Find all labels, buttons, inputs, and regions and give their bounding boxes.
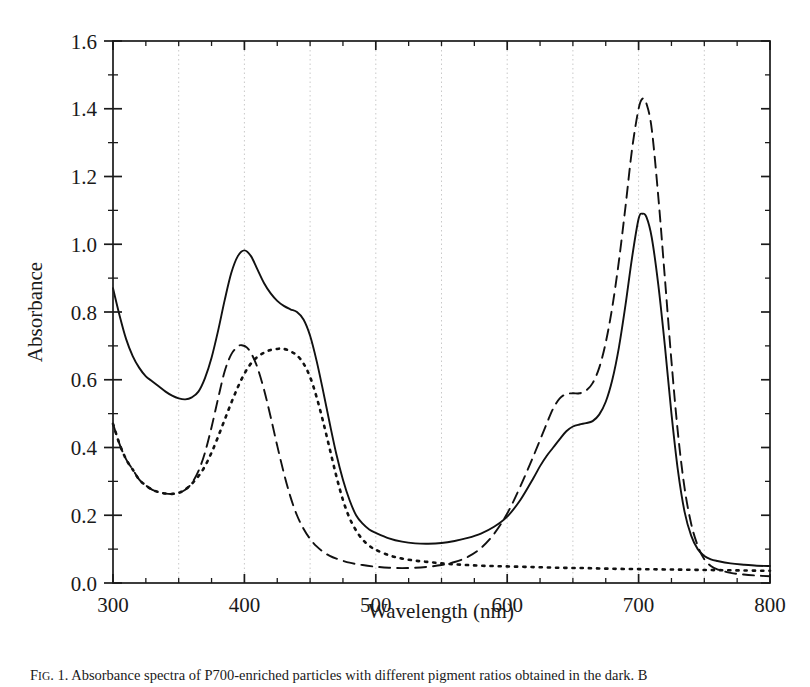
caption-text: . 1. Absorbance spectra of P700-enriched… <box>50 667 647 683</box>
y-tick-label-0.8: 0.8 <box>71 301 97 325</box>
axis-ticks <box>104 41 770 583</box>
y-axis-tick-labels: 0.00.20.40.60.81.01.21.41.6 <box>71 30 98 596</box>
x-tick-label-300: 300 <box>97 593 129 617</box>
absorbance-spectra-chart: 300400500600700800 0.00.20.40.60.81.01.2… <box>0 0 810 630</box>
figure-container: 300400500600700800 0.00.20.40.60.81.01.2… <box>0 0 810 687</box>
gridlines <box>179 41 705 583</box>
y-tick-label-1.6: 1.6 <box>71 30 97 54</box>
y-tick-label-0: 0.0 <box>71 572 97 596</box>
x-axis-title: Wavelength (nm) <box>368 599 514 623</box>
y-tick-label-0.6: 0.6 <box>71 368 97 392</box>
y-tick-label-0.2: 0.2 <box>71 504 97 528</box>
y-axis-title: Absorbance <box>23 262 47 362</box>
x-tick-label-800: 800 <box>754 593 786 617</box>
y-tick-label-0.4: 0.4 <box>71 436 98 460</box>
caption-prefix-smallcaps: IG <box>38 670 50 682</box>
x-tick-label-700: 700 <box>623 593 655 617</box>
y-tick-label-1: 1.0 <box>71 233 97 257</box>
x-tick-label-400: 400 <box>229 593 261 617</box>
figure-caption: FIG. 1. Absorbance spectra of P700-enric… <box>30 666 782 687</box>
y-tick-label-1.2: 1.2 <box>71 165 97 189</box>
caption-prefix: F <box>30 667 38 683</box>
y-tick-label-1.4: 1.4 <box>71 97 98 121</box>
